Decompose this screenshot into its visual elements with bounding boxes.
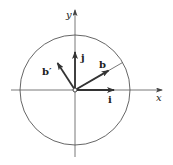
vector-b-label: b: [99, 59, 106, 70]
vector-b-prime-label: b′: [42, 66, 52, 77]
y-axis-label: y: [65, 9, 72, 20]
vector-b: [75, 71, 109, 90]
vector-j-label: j: [80, 52, 85, 63]
vector-b-prime: [58, 63, 76, 90]
origin-point: [73, 88, 77, 92]
x-axis-label: x: [156, 92, 162, 103]
vector-diagram: x y i j b b′: [0, 0, 173, 165]
vector-i-label: i: [108, 94, 112, 105]
